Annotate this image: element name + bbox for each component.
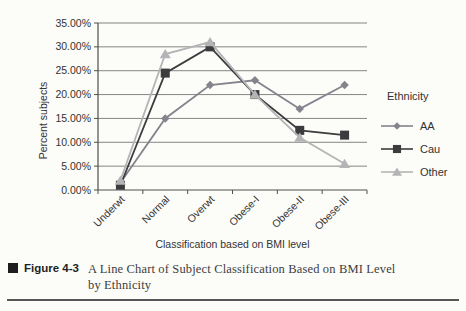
figure-caption: Figure 4-3 A Line Chart of Subject Class… [0, 261, 466, 293]
x-category-label: Obese-I [226, 193, 261, 228]
figure-title-line2: by Ethnicity [88, 278, 151, 292]
triangle-marker-icon [339, 159, 350, 168]
y-axis-title: Percent subjects [37, 37, 52, 204]
legend-swatch-svg [381, 119, 413, 133]
legend-swatch-svg [381, 142, 413, 156]
aa-diamond-marker-icon [381, 119, 413, 133]
legend-label-aa: AA [420, 120, 435, 132]
diamond-marker-icon [340, 81, 348, 89]
caption-bullet-icon [8, 263, 18, 273]
legend-label-cau: Cau [420, 143, 440, 155]
cau-square-marker-icon [381, 142, 413, 156]
legend-swatch-svg [381, 165, 413, 179]
triangle-marker-icon [205, 37, 216, 46]
y-tick-label: 0.00% [61, 184, 91, 196]
series-cau [116, 42, 349, 189]
y-tick-label: 5.00% [61, 160, 91, 172]
chart-legend: Ethnicity AA Cau Other [381, 90, 448, 188]
diamond-marker-icon [393, 122, 401, 130]
y-tick-label: 10.00% [55, 136, 91, 148]
legend-entry-aa: AA [381, 119, 448, 133]
figure-number: Figure 4-3 [24, 261, 88, 293]
y-tick-label: 20.00% [55, 88, 91, 100]
legend-label-other: Other [420, 166, 448, 178]
x-category-label: Overwt [184, 193, 216, 225]
series-line-other [120, 42, 344, 180]
other-triangle-marker-icon [381, 165, 413, 179]
x-category-label: Underwt [91, 193, 127, 229]
x-category-label: Normal [139, 193, 171, 225]
legend-entry-cau: Cau [381, 142, 448, 156]
figure-title-line1: A Line Chart of Subject Classification B… [88, 262, 395, 276]
legend-entry-other: Other [381, 165, 448, 179]
page-divider [7, 299, 459, 301]
y-tick-label: 15.00% [55, 112, 91, 124]
x-category-label: Obese-II [269, 193, 306, 230]
y-tick-label: 30.00% [55, 40, 91, 52]
y-tick-label: 25.00% [55, 64, 91, 76]
x-axis-title: Classification based on BMI level [98, 238, 367, 250]
legend-title: Ethnicity [381, 90, 448, 102]
y-tick-label: 35.00% [55, 17, 91, 29]
square-marker-icon [161, 69, 170, 78]
x-category-label: Obese-III [312, 193, 351, 232]
textbook-page: 35.00%30.00%25.00%20.00%15.00%10.00%5.00… [0, 0, 466, 311]
bmi-line-chart: 35.00%30.00%25.00%20.00%15.00%10.00%5.00… [0, 0, 466, 260]
square-marker-icon [340, 131, 349, 140]
figure-title: A Line Chart of Subject Classification B… [88, 261, 466, 293]
square-marker-icon [393, 145, 401, 153]
